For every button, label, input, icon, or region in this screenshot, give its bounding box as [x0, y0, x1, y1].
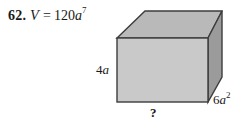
- prism-top-face: [117, 11, 222, 38]
- rectangular-prism-drawing: [0, 0, 242, 122]
- depth-exponent: 2: [226, 90, 231, 100]
- figure-container: 62.V=120a7 4a 6a2 ?: [0, 0, 242, 122]
- height-label: 4a: [96, 63, 109, 76]
- height-base: a: [103, 62, 110, 77]
- width-label: ?: [150, 106, 157, 119]
- prism-front-face: [117, 38, 208, 102]
- depth-label: 6a2: [213, 93, 231, 106]
